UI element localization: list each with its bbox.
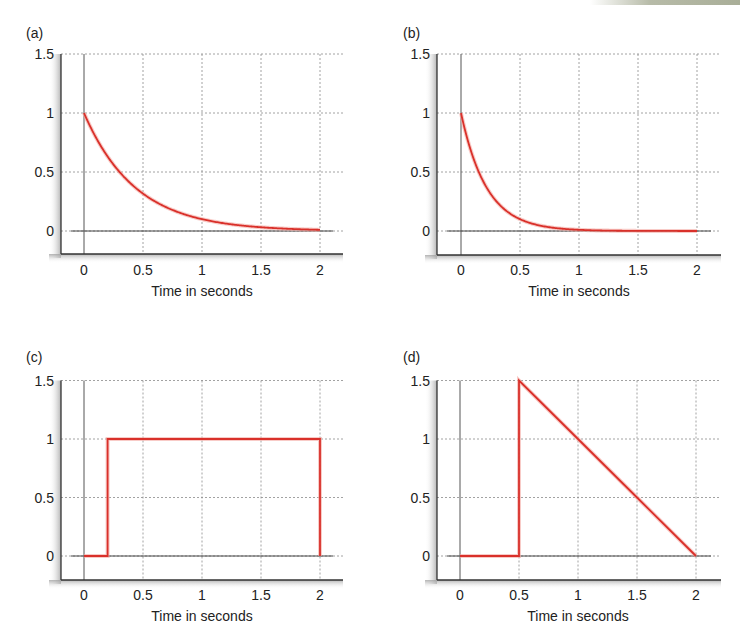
x-axis-title: Time in seconds xyxy=(151,608,252,624)
y-tick-label: 0.5 xyxy=(35,490,55,506)
panel-label: (d) xyxy=(403,349,420,365)
x-tick-label: 0 xyxy=(456,587,464,603)
y-tick-label: 0.5 xyxy=(35,164,55,180)
chart-panel-a: (a)00.511.500.511.52Time in seconds xyxy=(26,25,343,299)
x-axis-title: Time in seconds xyxy=(151,283,252,299)
chart-panel-b: (b)00.511.500.511.52Time in seconds xyxy=(403,25,721,299)
x-tick-label: 0.5 xyxy=(509,587,529,603)
x-tick-label: 2 xyxy=(693,262,701,278)
y-tick-label: 1 xyxy=(46,431,54,447)
y-tick-label: 0.5 xyxy=(411,164,431,180)
x-tick-label: 0.5 xyxy=(133,262,153,278)
x-tick-label: 1 xyxy=(198,262,206,278)
y-tick-label: 0.5 xyxy=(411,490,431,506)
panel-label: (a) xyxy=(26,25,43,41)
x-tick-label: 0.5 xyxy=(510,262,530,278)
y-tick-label: 1 xyxy=(46,105,54,121)
x-axis-title: Time in seconds xyxy=(528,283,629,299)
axis-shadow-bottom xyxy=(49,254,343,263)
x-tick-label: 0.5 xyxy=(133,587,153,603)
y-tick-label: 1 xyxy=(422,431,430,447)
y-tick-label: 1.5 xyxy=(35,46,55,62)
x-tick-label: 2 xyxy=(316,262,324,278)
x-tick-label: 1 xyxy=(574,587,582,603)
x-tick-label: 0 xyxy=(457,262,465,278)
panel-label: (b) xyxy=(403,25,420,41)
figure-2x2-signal-plots: (a)00.511.500.511.52Time in seconds (b)0… xyxy=(0,0,740,639)
chart-panel-c: (c)00.511.500.511.52Time in seconds xyxy=(26,349,343,624)
x-tick-label: 0 xyxy=(80,587,88,603)
panel-label: (c) xyxy=(26,349,42,365)
axis-shadow-bottom xyxy=(425,580,721,589)
y-tick-label: 0 xyxy=(46,548,54,564)
axis-shadow-bottom xyxy=(49,580,343,589)
x-tick-label: 1.5 xyxy=(251,587,271,603)
y-tick-label: 1.5 xyxy=(411,46,431,62)
y-tick-label: 0 xyxy=(46,223,54,239)
axis-shadow-bottom xyxy=(425,255,721,264)
x-tick-label: 0 xyxy=(80,262,88,278)
y-tick-label: 1.5 xyxy=(35,373,55,389)
y-tick-label: 1 xyxy=(422,105,430,121)
y-tick-label: 0 xyxy=(422,223,430,239)
chart-panel-d: (d)00.511.500.511.52Time in seconds xyxy=(403,349,721,624)
x-axis-title: Time in seconds xyxy=(527,608,628,624)
x-tick-label: 1.5 xyxy=(627,587,647,603)
x-tick-label: 1 xyxy=(198,587,206,603)
y-tick-label: 0 xyxy=(422,548,430,564)
x-tick-label: 1.5 xyxy=(628,262,648,278)
x-tick-label: 2 xyxy=(316,587,324,603)
x-tick-label: 1.5 xyxy=(251,262,271,278)
plot-area xyxy=(437,381,721,581)
y-tick-label: 1.5 xyxy=(411,373,431,389)
x-tick-label: 1 xyxy=(575,262,583,278)
x-tick-label: 2 xyxy=(692,587,700,603)
